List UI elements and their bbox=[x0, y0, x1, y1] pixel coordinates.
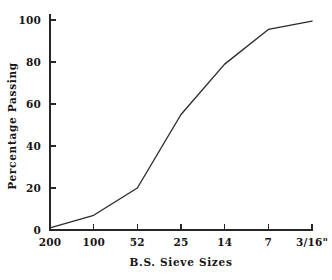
y-tick-label: 0 bbox=[33, 224, 41, 236]
sieve-grading-chart: 020406080100 20010052251473/16" B.S. Sie… bbox=[0, 0, 332, 280]
y-tick-label: 40 bbox=[26, 140, 41, 152]
x-tick-label: 14 bbox=[217, 236, 232, 248]
y-axis-title: Percentage Passing bbox=[6, 62, 18, 190]
x-axis-tick-labels: 20010052251473/16" bbox=[39, 236, 328, 248]
y-axis-tick-labels: 020406080100 bbox=[18, 14, 41, 236]
grading-curve-line bbox=[50, 21, 312, 228]
x-axis-title: B.S. Sieve Sizes bbox=[129, 256, 232, 268]
chart-plot-area: 020406080100 20010052251473/16" B.S. Sie… bbox=[0, 0, 332, 280]
x-tick-label: 3/16" bbox=[296, 236, 328, 248]
y-tick-label: 80 bbox=[26, 56, 41, 68]
y-tick-label: 60 bbox=[26, 98, 41, 110]
y-tick-label: 100 bbox=[18, 14, 41, 26]
x-tick-label: 100 bbox=[82, 236, 105, 248]
y-tick-label: 20 bbox=[26, 182, 41, 194]
axis-group bbox=[50, 14, 312, 230]
x-tick-label: 25 bbox=[173, 236, 188, 248]
x-tick-label: 7 bbox=[265, 236, 273, 248]
x-tick-label: 200 bbox=[39, 236, 62, 248]
x-tick-label: 52 bbox=[130, 236, 145, 248]
